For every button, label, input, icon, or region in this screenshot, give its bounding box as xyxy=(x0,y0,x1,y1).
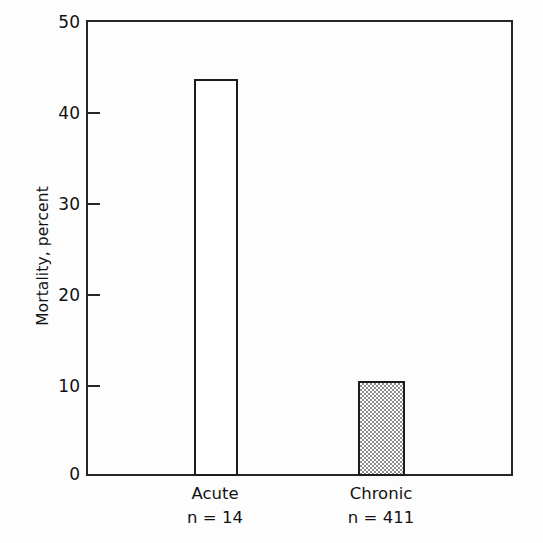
y-tick-label-0: 0 xyxy=(69,464,80,484)
category-name-chronic: Chronic xyxy=(321,482,441,506)
y-axis-title: Mortality, percent xyxy=(34,146,52,366)
y-tick-mark-10 xyxy=(86,385,100,387)
category-n-chronic: n = 411 xyxy=(321,506,441,530)
category-name-acute: Acute xyxy=(155,482,275,506)
plot-frame xyxy=(86,20,513,476)
y-tick-mark-30 xyxy=(86,203,100,205)
y-tick-label-20: 20 xyxy=(58,285,80,305)
y-tick-label-40: 40 xyxy=(58,103,80,123)
category-n-acute: n = 14 xyxy=(155,506,275,530)
y-tick-mark-20 xyxy=(86,294,100,296)
mortality-bar-chart-figure: Mortality, percent 50 40 30 20 10 0 Acut… xyxy=(0,0,543,543)
y-tick-label-50: 50 xyxy=(58,12,80,32)
category-label-acute: Acute n = 14 xyxy=(155,482,275,530)
y-tick-mark-40 xyxy=(86,112,100,114)
y-tick-label-30: 30 xyxy=(58,194,80,214)
category-label-chronic: Chronic n = 411 xyxy=(321,482,441,530)
bar-chronic xyxy=(358,381,405,476)
y-tick-label-10: 10 xyxy=(58,376,80,396)
bar-acute xyxy=(194,79,238,476)
